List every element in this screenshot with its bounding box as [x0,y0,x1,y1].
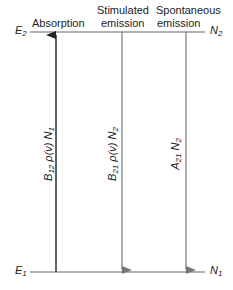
spontaneous-emission-title-line2: emission [157,18,200,29]
stimulated-emission-rate-label: B21 ρ(ν) N2 [106,114,118,194]
stimulated-emission-title-line1: Stimulated [97,5,149,16]
upper-population-label: N2 [210,25,222,36]
spontaneous-emission-title-line1: Spontaneous [156,5,221,16]
lower-energy-label: E1 [15,265,27,276]
spontaneous-emission-rate-label: A21 N2 [169,124,181,184]
stimulated-emission-title-line2: emission [101,18,144,29]
upper-energy-label: E2 [15,25,27,36]
absorption-title: Absorption [32,18,85,29]
lower-population-label: N1 [210,265,222,276]
absorption-rate-label: B12 ρ(ν) N1 [42,114,54,194]
